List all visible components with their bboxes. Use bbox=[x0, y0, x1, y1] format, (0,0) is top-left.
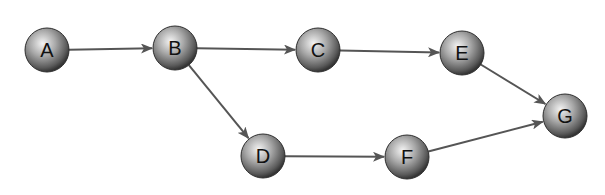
node-f: F bbox=[385, 135, 429, 179]
node-b: B bbox=[153, 26, 197, 70]
node-label: B bbox=[168, 37, 181, 59]
node-d: D bbox=[241, 134, 285, 178]
node-label: G bbox=[557, 105, 573, 127]
node-label: C bbox=[311, 39, 325, 61]
node-a: A bbox=[25, 28, 69, 72]
edge-d-f bbox=[285, 156, 384, 157]
edge-e-g bbox=[481, 64, 546, 104]
node-e: E bbox=[440, 31, 484, 75]
node-label: F bbox=[401, 146, 413, 168]
node-label: D bbox=[256, 145, 270, 167]
edge-b-c bbox=[197, 48, 295, 49]
edge-a-b bbox=[69, 48, 152, 49]
node-label: A bbox=[40, 39, 54, 61]
node-g: G bbox=[543, 94, 587, 138]
edge-f-g bbox=[428, 122, 542, 152]
edge-c-e bbox=[340, 50, 439, 52]
graph-canvas: ABCEGDF bbox=[0, 0, 605, 195]
node-label: E bbox=[455, 42, 468, 64]
node-c: C bbox=[296, 28, 340, 72]
edge-b-d bbox=[189, 65, 249, 138]
